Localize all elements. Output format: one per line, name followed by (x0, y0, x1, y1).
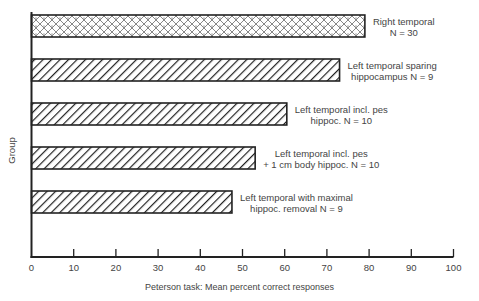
x-tick-label: 60 (279, 262, 290, 273)
x-tick-label: 80 (364, 262, 375, 273)
x-tick-label: 20 (111, 262, 122, 273)
bar-label: Left temporal with maximalhippoc. remova… (240, 192, 353, 214)
x-tick-label: 50 (237, 262, 248, 273)
bar-2 (32, 59, 340, 81)
bar-label: Left temporal incl. pes+ 1 cm body hippo… (263, 148, 379, 170)
bar-3 (32, 103, 287, 125)
y-axis-label: Group (6, 137, 17, 163)
x-tick-label: 90 (406, 262, 417, 273)
bar-label: Right temporalN = 30 (373, 16, 435, 38)
bar-label: Left temporal incl. peshippoc. N = 10 (295, 104, 388, 126)
x-tick-label: 30 (153, 262, 164, 273)
bar-4 (32, 147, 256, 169)
x-axis-label: Peterson task: Mean percent correct resp… (0, 282, 479, 292)
bar-1 (32, 15, 365, 37)
x-tick-label: 10 (68, 262, 79, 273)
x-tick-label: 40 (195, 262, 206, 273)
bar-label: Left temporal sparinghippocampus N = 9 (348, 60, 437, 82)
x-tick-label: 0 (29, 262, 34, 273)
bar-5 (32, 191, 232, 213)
bar-chart (0, 0, 479, 301)
x-tick-label: 100 (446, 262, 462, 273)
x-tick-label: 70 (322, 262, 333, 273)
